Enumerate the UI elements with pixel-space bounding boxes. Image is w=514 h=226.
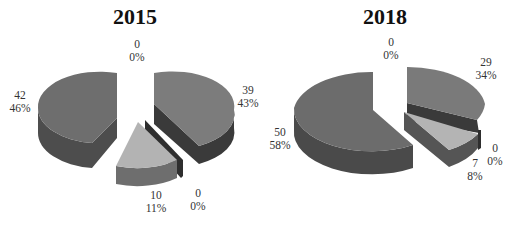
label-2018-top-zero: 00%	[371, 36, 411, 62]
label-2018-29: 2934%	[466, 56, 506, 82]
label-2015-top-zero: 00%	[117, 38, 157, 64]
pie-chart-2018: 2018 00% 2934% 5058% 00% 78%	[257, 0, 514, 226]
chart-title-2015: 2015	[85, 4, 185, 30]
label-2015-bottom-zero: 00%	[178, 187, 218, 213]
label-2015-10: 1011%	[136, 189, 176, 215]
slice-2015-39-top	[154, 71, 234, 146]
label-2015-42: 4246%	[0, 89, 40, 115]
label-2018-50: 5058%	[260, 126, 300, 152]
chart-title-2018: 2018	[335, 4, 435, 30]
label-2018-7: 78%	[455, 157, 495, 183]
pie-2018-graphic	[257, 0, 514, 226]
pie-chart-2015: 2015 00% 3943% 4246% 1011% 00%	[0, 0, 257, 226]
